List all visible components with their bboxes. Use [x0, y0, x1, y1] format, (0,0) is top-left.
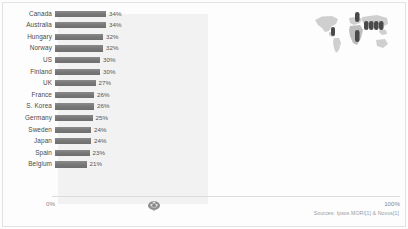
bar-track: 24%: [55, 124, 206, 136]
bar-category-label: Finland: [6, 69, 55, 75]
bar-category-label: Hungary: [6, 34, 55, 40]
bar-value-label: 27%: [99, 80, 111, 86]
bar: [55, 92, 94, 98]
bar-value-label: 30%: [103, 69, 115, 75]
bar-category-label: Norway: [6, 45, 55, 51]
bar-row: Hungary32%: [6, 31, 206, 43]
bar-value-label: 26%: [97, 103, 109, 109]
bar: [55, 34, 103, 40]
bar-track: 34%: [55, 8, 206, 20]
brand-watermark-logo: [146, 198, 162, 211]
bar: [55, 115, 93, 121]
bar-track: 32%: [55, 43, 206, 55]
bar-track: 30%: [55, 54, 206, 66]
bar: [55, 57, 100, 63]
bar: [55, 127, 91, 133]
bar-category-label: Germany: [6, 115, 55, 121]
bar-value-label: 23%: [93, 150, 105, 156]
bar-track: 32%: [55, 31, 206, 43]
bar-category-label: Japan: [6, 138, 55, 144]
bar-row: US30%: [6, 54, 206, 66]
bar-value-label: 24%: [94, 138, 106, 144]
bar-category-label: Belgium: [6, 161, 55, 167]
bar-track: 25%: [55, 112, 206, 124]
bar-row: Finland30%: [6, 66, 206, 78]
bar: [55, 80, 96, 86]
axis-tick-min: 0%: [46, 200, 55, 207]
bar: [55, 11, 106, 17]
bar-track: 24%: [55, 136, 206, 148]
bar-category-label: France: [6, 92, 55, 98]
chart-screenshot: Canada34%Australia34%Hungary32%Norway32%…: [0, 0, 408, 229]
bar: [55, 103, 94, 109]
bar-row: S. Korea26%: [6, 101, 206, 113]
bar-row: Spain23%: [6, 147, 206, 159]
bar-track: 26%: [55, 101, 206, 113]
bar-category-label: Canada: [6, 11, 55, 17]
bar-row: Australia34%: [6, 20, 206, 32]
bar-value-label: 30%: [103, 57, 115, 63]
bar-row: Japan24%: [6, 136, 206, 148]
bar-value-label: 26%: [97, 92, 109, 98]
bar-row: Belgium21%: [6, 159, 206, 171]
bar: [55, 161, 87, 167]
bar-category-label: S. Korea: [6, 103, 55, 109]
bar: [55, 22, 106, 28]
bar: [55, 150, 90, 156]
axis-tick-max: 100%: [384, 200, 400, 207]
bar-row: UK27%: [6, 78, 206, 90]
bar-value-label: 32%: [106, 34, 118, 40]
bar: [55, 45, 103, 51]
bar-value-label: 24%: [94, 127, 106, 133]
bar-value-label: 21%: [90, 161, 102, 167]
bar-category-label: Spain: [6, 150, 55, 156]
bar-row: Canada34%: [6, 8, 206, 20]
bar-category-label: Sweden: [6, 127, 55, 133]
bar-track: 23%: [55, 147, 206, 159]
bar-track: 26%: [55, 89, 206, 101]
bar: [55, 69, 100, 75]
bar-row: Norway32%: [6, 43, 206, 55]
source-attribution: Sources: Ipsos MORI[1] & Novus[1]: [314, 210, 399, 216]
bar-chart: Canada34%Australia34%Hungary32%Norway32%…: [6, 8, 206, 196]
bar-track: 30%: [55, 66, 206, 78]
bar-rows: Canada34%Australia34%Hungary32%Norway32%…: [6, 8, 206, 170]
bar: [55, 138, 91, 144]
x-axis-line: [52, 196, 400, 197]
bar-value-label: 34%: [109, 22, 121, 28]
bar-value-label: 25%: [96, 115, 108, 121]
bar-row: France26%: [6, 89, 206, 101]
bar-value-label: 34%: [109, 11, 121, 17]
bar-track: 21%: [55, 159, 206, 171]
bar-value-label: 32%: [106, 45, 118, 51]
bar-track: 34%: [55, 20, 206, 32]
bar-row: Sweden24%: [6, 124, 206, 136]
bar-category-label: UK: [6, 80, 55, 86]
world-map-graphic: [312, 10, 394, 56]
bar-row: Germany25%: [6, 112, 206, 124]
bar-category-label: Australia: [6, 22, 55, 28]
bar-track: 27%: [55, 78, 206, 90]
bar-category-label: US: [6, 57, 55, 63]
